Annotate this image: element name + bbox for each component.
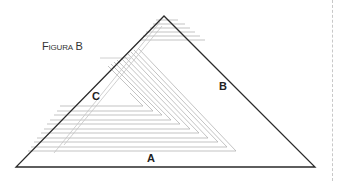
inner-chevron-lines — [28, 20, 236, 151]
side-label-a: A — [147, 152, 155, 164]
side-label-b: B — [219, 80, 227, 92]
dashed-page-border — [332, 0, 333, 181]
side-label-c: C — [92, 90, 100, 102]
triangle-drawing — [0, 0, 337, 181]
figure-b-diagram: FIGURA B — [0, 0, 337, 181]
